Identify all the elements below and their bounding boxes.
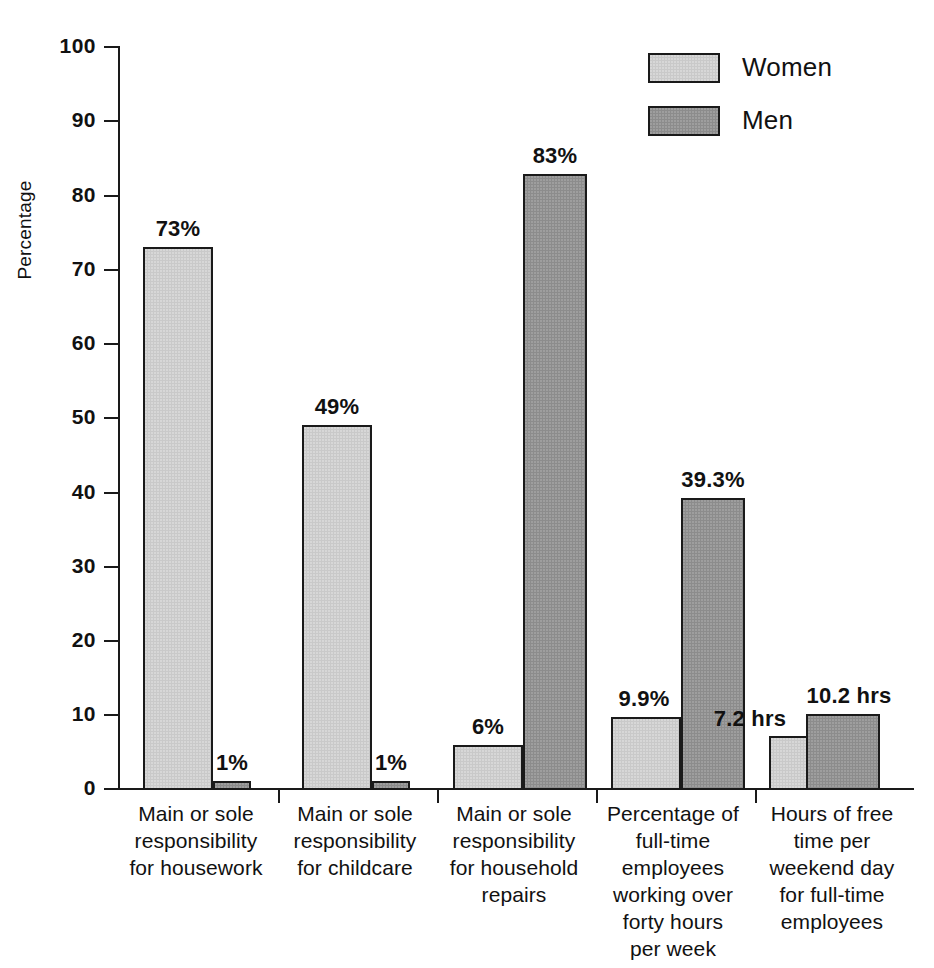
y-tick-label-50: 50 xyxy=(36,405,96,429)
y-tick-label-80: 80 xyxy=(36,183,96,207)
bar-value-men-freetime: 10.2 hrs xyxy=(784,683,914,709)
bar-value-men-repairs: 83% xyxy=(505,143,605,169)
bar-men-childcare[interactable] xyxy=(372,781,410,790)
x-group-label-overtime: Percentage offull-timeemployeesworking o… xyxy=(590,800,756,962)
bar-value-men-childcare: 1% xyxy=(341,750,441,776)
bar-chart: Percentage 100 90 80 70 60 50 40 30 20 1… xyxy=(0,0,934,968)
legend-item-women[interactable]: Women xyxy=(648,52,908,83)
y-tick-label-60: 60 xyxy=(36,331,96,355)
y-axis-label: Percentage xyxy=(14,130,44,330)
bar-men-overtime[interactable] xyxy=(681,498,745,790)
x-group-label-repairs: Main or soleresponsibilityfor householdr… xyxy=(431,800,597,908)
legend-swatch-women-icon xyxy=(648,53,720,83)
y-tick-60 xyxy=(104,343,120,345)
bar-value-women-housework: 73% xyxy=(128,216,228,242)
legend-label-women: Women xyxy=(742,52,832,83)
y-tick-70 xyxy=(104,269,120,271)
bar-value-women-childcare: 49% xyxy=(287,394,387,420)
x-group-label-freetime: Hours of freetime perweekend dayfor full… xyxy=(749,800,915,935)
y-tick-label-0: 0 xyxy=(36,776,96,800)
y-tick-label-70: 70 xyxy=(36,257,96,281)
y-tick-10 xyxy=(104,714,120,716)
x-group-label-housework: Main or soleresponsibilityfor housework xyxy=(113,800,279,881)
legend-label-men: Men xyxy=(742,105,793,136)
bar-value-men-overtime: 39.3% xyxy=(658,467,768,493)
bar-value-women-freetime: 7.2 hrs xyxy=(690,706,810,732)
y-tick-90 xyxy=(104,120,120,122)
y-tick-label-20: 20 xyxy=(36,628,96,652)
y-tick-label-100: 100 xyxy=(36,34,96,58)
y-tick-label-40: 40 xyxy=(36,480,96,504)
bar-women-housework[interactable] xyxy=(143,247,213,790)
y-tick-30 xyxy=(104,566,120,568)
bar-men-repairs[interactable] xyxy=(523,174,587,790)
y-tick-label-90: 90 xyxy=(36,108,96,132)
bar-men-freetime[interactable] xyxy=(806,714,880,790)
bar-women-childcare[interactable] xyxy=(302,425,372,790)
legend: Women Men xyxy=(648,52,908,158)
legend-item-men[interactable]: Men xyxy=(648,105,908,136)
y-tick-100 xyxy=(104,46,120,48)
y-tick-label-10: 10 xyxy=(36,702,96,726)
y-tick-80 xyxy=(104,195,120,197)
y-tick-20 xyxy=(104,640,120,642)
bar-men-housework[interactable] xyxy=(213,781,251,790)
x-group-label-childcare: Main or soleresponsibilityfor childcare xyxy=(272,800,438,881)
y-tick-40 xyxy=(104,492,120,494)
bar-women-repairs[interactable] xyxy=(453,745,523,790)
y-tick-label-30: 30 xyxy=(36,554,96,578)
bar-women-overtime[interactable] xyxy=(611,717,681,790)
y-tick-50 xyxy=(104,417,120,419)
bar-value-men-housework: 1% xyxy=(182,750,282,776)
legend-swatch-men-icon xyxy=(648,106,720,136)
